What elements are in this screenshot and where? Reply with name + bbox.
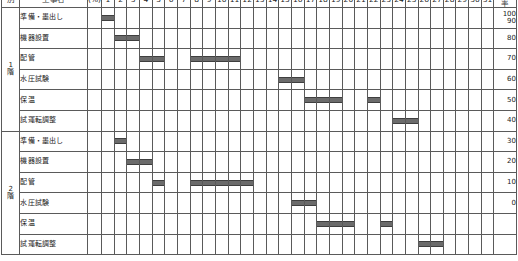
gantt-cell-day-23[interactable] bbox=[380, 152, 393, 173]
gantt-cell-day-14[interactable] bbox=[266, 213, 279, 234]
gantt-cell-day-12[interactable] bbox=[241, 152, 254, 173]
gantt-cell-day-19[interactable] bbox=[329, 28, 342, 49]
gantt-cell-day-30[interactable] bbox=[469, 193, 482, 214]
gantt-cell-day-28[interactable] bbox=[443, 131, 456, 152]
gantt-cell-day-7[interactable] bbox=[178, 8, 191, 29]
gantt-cell-day-2[interactable] bbox=[114, 213, 127, 234]
gantt-cell-day-5[interactable] bbox=[152, 213, 165, 234]
gantt-bar-segment[interactable] bbox=[431, 241, 444, 247]
gantt-cell-day-21[interactable] bbox=[355, 90, 368, 111]
gantt-bar-segment[interactable] bbox=[279, 77, 292, 83]
gantt-cell-day-14[interactable] bbox=[266, 131, 279, 152]
gantt-cell-day-21[interactable] bbox=[355, 69, 368, 90]
gantt-cell-day-8[interactable] bbox=[190, 28, 203, 49]
gantt-bar-segment[interactable] bbox=[190, 180, 203, 186]
gantt-cell-day-11[interactable] bbox=[228, 28, 241, 49]
gantt-cell-day-23[interactable] bbox=[380, 90, 393, 111]
gantt-cell-day-24[interactable] bbox=[393, 193, 406, 214]
gantt-cell-day-7[interactable] bbox=[178, 69, 191, 90]
gantt-cell-day-27[interactable] bbox=[431, 131, 444, 152]
gantt-cell-day-22[interactable] bbox=[367, 69, 380, 90]
gantt-cell-day-16[interactable] bbox=[291, 110, 304, 131]
gantt-cell-day-29[interactable] bbox=[456, 69, 469, 90]
gantt-cell-day-25[interactable] bbox=[405, 49, 418, 70]
gantt-cell-day-4[interactable] bbox=[140, 110, 153, 131]
gantt-cell-day-22[interactable] bbox=[367, 8, 380, 29]
gantt-bar-segment[interactable] bbox=[114, 35, 127, 41]
gantt-cell-day-28[interactable] bbox=[443, 110, 456, 131]
gantt-cell-day-29[interactable] bbox=[456, 110, 469, 131]
gantt-cell-day-4[interactable] bbox=[140, 152, 153, 173]
gantt-cell-day-30[interactable] bbox=[469, 131, 482, 152]
gantt-cell-day-3[interactable] bbox=[127, 110, 140, 131]
gantt-cell-day-23[interactable] bbox=[380, 131, 393, 152]
gantt-cell-day-6[interactable] bbox=[165, 49, 178, 70]
gantt-cell-day-15[interactable] bbox=[279, 172, 292, 193]
gantt-cell-day-17[interactable] bbox=[304, 193, 317, 214]
gantt-cell-day-9[interactable] bbox=[203, 69, 216, 90]
gantt-cell-day-14[interactable] bbox=[266, 49, 279, 70]
gantt-cell-day-7[interactable] bbox=[178, 193, 191, 214]
gantt-cell-day-16[interactable] bbox=[291, 234, 304, 255]
gantt-cell-day-4[interactable] bbox=[140, 131, 153, 152]
gantt-cell-day-24[interactable] bbox=[393, 28, 406, 49]
gantt-cell-day-29[interactable] bbox=[456, 193, 469, 214]
gantt-cell-day-2[interactable] bbox=[114, 152, 127, 173]
gantt-cell-day-19[interactable] bbox=[329, 152, 342, 173]
gantt-cell-day-5[interactable] bbox=[152, 8, 165, 29]
gantt-cell-day-15[interactable] bbox=[279, 49, 292, 70]
gantt-cell-day-12[interactable] bbox=[241, 193, 254, 214]
gantt-cell-day-24[interactable] bbox=[393, 234, 406, 255]
gantt-bar-segment[interactable] bbox=[304, 200, 317, 206]
gantt-cell-day-15[interactable] bbox=[279, 28, 292, 49]
gantt-cell-day-25[interactable] bbox=[405, 234, 418, 255]
gantt-cell-day-5[interactable] bbox=[152, 193, 165, 214]
gantt-cell-day-20[interactable] bbox=[342, 193, 355, 214]
gantt-cell-day-24[interactable] bbox=[393, 152, 406, 173]
gantt-cell-day-9[interactable] bbox=[203, 90, 216, 111]
gantt-cell-day-7[interactable] bbox=[178, 152, 191, 173]
gantt-cell-day-12[interactable] bbox=[241, 90, 254, 111]
gantt-cell-day-13[interactable] bbox=[253, 152, 266, 173]
gantt-cell-day-31[interactable] bbox=[481, 172, 494, 193]
gantt-cell-day-15[interactable] bbox=[279, 8, 292, 29]
gantt-cell-day-26[interactable] bbox=[418, 131, 431, 152]
task-percent-cell[interactable] bbox=[87, 172, 101, 193]
gantt-cell-day-21[interactable] bbox=[355, 49, 368, 70]
gantt-cell-day-1[interactable] bbox=[102, 172, 115, 193]
gantt-cell-day-13[interactable] bbox=[253, 234, 266, 255]
gantt-cell-day-26[interactable] bbox=[418, 234, 431, 255]
gantt-cell-day-8[interactable] bbox=[190, 172, 203, 193]
gantt-cell-day-2[interactable] bbox=[114, 28, 127, 49]
gantt-bar-segment[interactable] bbox=[291, 77, 304, 83]
gantt-cell-day-1[interactable] bbox=[102, 110, 115, 131]
gantt-cell-day-15[interactable] bbox=[279, 213, 292, 234]
gantt-cell-day-26[interactable] bbox=[418, 49, 431, 70]
gantt-cell-day-4[interactable] bbox=[140, 193, 153, 214]
gantt-cell-day-14[interactable] bbox=[266, 234, 279, 255]
gantt-cell-day-15[interactable] bbox=[279, 90, 292, 111]
gantt-cell-day-23[interactable] bbox=[380, 213, 393, 234]
gantt-cell-day-29[interactable] bbox=[456, 49, 469, 70]
gantt-cell-day-26[interactable] bbox=[418, 193, 431, 214]
gantt-cell-day-10[interactable] bbox=[216, 69, 229, 90]
gantt-cell-day-24[interactable] bbox=[393, 90, 406, 111]
gantt-cell-day-12[interactable] bbox=[241, 213, 254, 234]
gantt-cell-day-5[interactable] bbox=[152, 49, 165, 70]
gantt-cell-day-19[interactable] bbox=[329, 234, 342, 255]
gantt-bar-segment[interactable] bbox=[203, 180, 216, 186]
task-percent-cell[interactable] bbox=[87, 234, 101, 255]
gantt-cell-day-1[interactable] bbox=[102, 234, 115, 255]
gantt-cell-day-9[interactable] bbox=[203, 28, 216, 49]
gantt-cell-day-30[interactable] bbox=[469, 152, 482, 173]
gantt-cell-day-4[interactable] bbox=[140, 213, 153, 234]
gantt-cell-day-10[interactable] bbox=[216, 28, 229, 49]
gantt-bar-segment[interactable] bbox=[418, 241, 431, 247]
gantt-task-row[interactable]: 配管70 bbox=[2, 49, 517, 70]
gantt-cell-day-8[interactable] bbox=[190, 234, 203, 255]
gantt-task-row[interactable]: 1階準備・墨出し10090 bbox=[2, 8, 517, 29]
gantt-cell-day-6[interactable] bbox=[165, 28, 178, 49]
gantt-cell-day-9[interactable] bbox=[203, 172, 216, 193]
gantt-cell-day-20[interactable] bbox=[342, 234, 355, 255]
gantt-cell-day-11[interactable] bbox=[228, 49, 241, 70]
